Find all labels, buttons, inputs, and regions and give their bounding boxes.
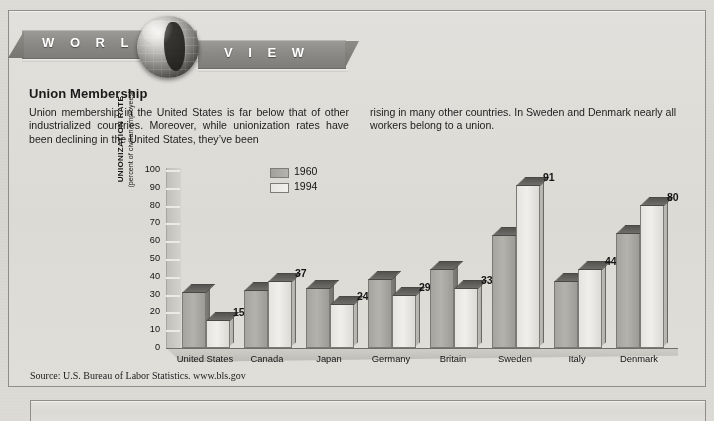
y-axis-tick-label: 80: [134, 200, 160, 210]
wall-step: [166, 312, 180, 314]
y-axis-tick-label: 90: [134, 182, 160, 192]
bar-group: 44Italy: [554, 160, 616, 348]
bar-face: [244, 290, 268, 348]
bar-value-label: 44: [605, 255, 617, 267]
y-axis-tick-label: 50: [134, 253, 160, 263]
bar-face: [182, 292, 206, 348]
legend-label-1960: 1960: [294, 165, 317, 177]
world-view-banner: W O R L D V I E W: [8, 14, 358, 70]
wall-step: [166, 330, 180, 332]
bar-1960: [492, 236, 514, 348]
legend-swatch-1994: [270, 183, 289, 193]
wall-step: [166, 170, 180, 172]
bar-1994: [392, 296, 414, 348]
bar-1960: [430, 270, 452, 348]
bar-face: [206, 320, 230, 348]
x-axis-label: Japan: [300, 353, 358, 364]
bar-face: [616, 233, 640, 348]
bar-face: [392, 295, 416, 348]
globe-icon: [137, 16, 199, 78]
bar-group: 15United States: [182, 160, 244, 348]
y-axis-tick-label: 70: [134, 217, 160, 227]
chart-plot-area: 15United States37Canada24Japan29Germany3…: [180, 160, 676, 348]
source-note: Source: U.S. Bureau of Labor Statistics.…: [30, 370, 246, 381]
bar-face: [454, 288, 478, 348]
globe-landmass: [164, 22, 185, 70]
bar-1960: [244, 291, 266, 348]
union-membership-chart: UNIONIZATION RATE (percent of civilian e…: [120, 160, 680, 360]
bar-face: [430, 269, 454, 348]
legend-swatch-1960: [270, 168, 289, 178]
bar-top: [306, 280, 339, 289]
bar-1960: [368, 280, 390, 348]
bar-value-label: 37: [295, 267, 307, 279]
wall-step: [166, 188, 180, 190]
bar-1994: [206, 321, 228, 348]
bar-top: [430, 261, 463, 270]
bar-top: [368, 271, 401, 280]
y-axis-tick-label: 60: [134, 235, 160, 245]
bar-face: [640, 205, 664, 348]
legend-label-1994: 1994: [294, 180, 317, 192]
bar-top: [182, 284, 215, 293]
x-axis-label: Germany: [362, 353, 420, 364]
bar-face: [492, 235, 516, 348]
wall-step: [166, 241, 180, 243]
bar-1994: [516, 186, 538, 348]
x-axis-label: United States: [176, 353, 234, 364]
bar-value-label: 24: [357, 290, 369, 302]
article-column-left: Union membership in the United States is…: [29, 106, 349, 146]
bar-1960: [616, 234, 638, 348]
chart-baseline: [166, 348, 678, 349]
y-axis-tick-label: 30: [134, 289, 160, 299]
bar-group: 91Sweden: [492, 160, 554, 348]
bar-group: 29Germany: [368, 160, 430, 348]
x-axis-label: Canada: [238, 353, 296, 364]
bar-face: [330, 304, 354, 348]
bar-1960: [306, 289, 328, 348]
x-axis-label: Denmark: [610, 353, 668, 364]
bar-1994: [268, 282, 290, 348]
y-axis-title-main: UNIONIZATION RATE: [116, 64, 125, 214]
bar-value-label: 29: [419, 281, 431, 293]
x-axis-label: Britain: [424, 353, 482, 364]
bar-group: 80Denmark: [616, 160, 678, 348]
bar-face: [516, 185, 540, 348]
wall-step: [166, 259, 180, 261]
bar-value-label: 80: [667, 191, 679, 203]
y-axis-tick-label: 0: [134, 342, 160, 352]
y-axis-tick-label: 100: [134, 164, 160, 174]
wall-step: [166, 277, 180, 279]
bar-value-label: 33: [481, 274, 493, 286]
bar-1994: [454, 289, 476, 348]
banner-rule-right: [198, 69, 348, 72]
wall-step: [166, 223, 180, 225]
bar-value-label: 91: [543, 171, 555, 183]
bar-1960: [554, 282, 576, 348]
bar-1960: [182, 293, 204, 348]
wall-step: [166, 295, 180, 297]
bar-face: [368, 279, 392, 348]
article-column-right: rising in many other countries. In Swede…: [370, 106, 686, 133]
bar-1994: [640, 206, 662, 348]
bar-group: 33Britain: [430, 160, 492, 348]
x-axis-label: Italy: [548, 353, 606, 364]
y-axis-ticks: 1009080706050403020100: [132, 160, 160, 360]
y-axis-tick-label: 40: [134, 271, 160, 281]
next-section-box: [30, 400, 706, 421]
bar-1994: [330, 305, 352, 348]
bar-face: [554, 281, 578, 348]
chart-back-wall: [166, 168, 181, 348]
x-axis-label: Sweden: [486, 353, 544, 364]
bar-face: [578, 269, 602, 348]
bar-1994: [578, 270, 600, 348]
bar-value-label: 15: [233, 306, 245, 318]
y-axis-tick-label: 20: [134, 306, 160, 316]
bar-face: [268, 281, 292, 348]
bar-face: [306, 288, 330, 348]
wall-step: [166, 206, 180, 208]
banner-word-view: V I E W: [224, 45, 310, 60]
y-axis-tick-label: 10: [134, 324, 160, 334]
